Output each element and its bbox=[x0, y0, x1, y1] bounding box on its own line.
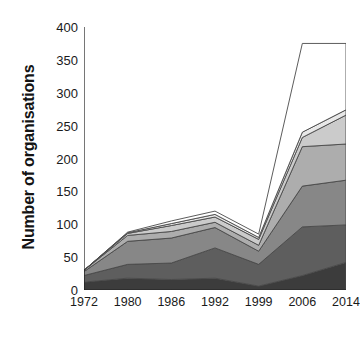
x-tick-label: 2014 bbox=[332, 296, 360, 309]
y-tick-label: 400 bbox=[56, 21, 78, 34]
x-tick-label: 1980 bbox=[114, 296, 142, 309]
y-axis-tick-labels: 050100150200250300350400 bbox=[40, 0, 78, 340]
x-tick-label: 1999 bbox=[245, 296, 273, 309]
stacked-areas-group bbox=[84, 43, 346, 290]
x-tick-label: 2006 bbox=[288, 296, 316, 309]
y-tick-label: 150 bbox=[56, 185, 78, 198]
x-tick-label: 1986 bbox=[157, 296, 185, 309]
y-axis-title-container: Number of organisations bbox=[0, 0, 34, 340]
stacked-area-chart: Number of organisations 0501001502002503… bbox=[0, 0, 360, 340]
x-axis-tick-labels: 1972198019861992199920062014 bbox=[0, 296, 360, 318]
y-tick-label: 250 bbox=[56, 120, 78, 133]
y-tick-label: 300 bbox=[56, 87, 78, 100]
y-tick-label: 200 bbox=[56, 153, 78, 166]
y-tick-label: 50 bbox=[64, 251, 78, 264]
chart-svg bbox=[84, 27, 346, 290]
y-axis-title: Number of organisations bbox=[20, 42, 38, 272]
plot-area bbox=[84, 27, 346, 290]
x-tick-label: 1992 bbox=[201, 296, 229, 309]
x-tick-label: 1972 bbox=[70, 296, 98, 309]
y-tick-label: 100 bbox=[56, 218, 78, 231]
y-tick-label: 350 bbox=[56, 54, 78, 67]
